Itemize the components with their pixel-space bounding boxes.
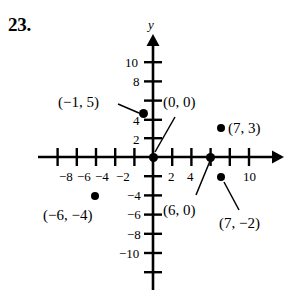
leader-line-0-0 — [155, 117, 175, 152]
x-tick-label-neg4: −4 — [95, 170, 109, 183]
data-point-neg1-5 — [139, 109, 148, 118]
point-label-neg6-neg4: (−6, −4) — [43, 208, 92, 223]
point-label-0-0: (0, 0) — [163, 95, 196, 110]
point-label-7-3: (7, 3) — [228, 121, 261, 136]
x-axis — [38, 151, 284, 164]
x-tick-label-10: 10 — [243, 170, 256, 183]
data-point-neg6-neg4 — [91, 192, 99, 200]
leader-line-neg1-5 — [118, 104, 139, 113]
y-tick-label-neg6: −6 — [127, 208, 141, 221]
x-tick-label-4: 4 — [187, 170, 194, 183]
data-point-7-3 — [217, 124, 225, 132]
data-point-0-0 — [149, 153, 158, 162]
data-point-7-neg2 — [217, 173, 225, 181]
x-tick-label-neg6: −6 — [77, 170, 91, 183]
leader-line-7-neg2 — [224, 182, 239, 210]
point-label-6-0: (6, 0) — [163, 203, 196, 218]
coordinate-plane — [0, 0, 294, 298]
y-axis-label: y — [148, 17, 154, 33]
y-tick-label-neg4: −4 — [127, 189, 141, 202]
x-tick-label-neg2: −2 — [116, 170, 130, 183]
x-tick-label-neg8: −8 — [59, 170, 73, 183]
data-point-6-0 — [206, 153, 215, 162]
y-tick-label-neg8: −8 — [127, 228, 141, 241]
y-axis — [147, 34, 160, 290]
point-label-neg1-5: (−1, 5) — [58, 95, 99, 110]
y-tick-label-2: 2 — [133, 133, 140, 146]
y-tick-label-4: 4 — [133, 114, 140, 127]
worksheet-figure: 23. — [0, 0, 294, 298]
x-tick-label-2: 2 — [168, 170, 175, 183]
point-label-7-neg2: (7, −2) — [219, 216, 260, 231]
leader-line-6-0 — [196, 161, 210, 195]
y-tick-label-10: 10 — [125, 56, 138, 69]
y-tick-label-neg10: −10 — [119, 247, 139, 260]
y-tick-label-8: 8 — [133, 75, 140, 88]
